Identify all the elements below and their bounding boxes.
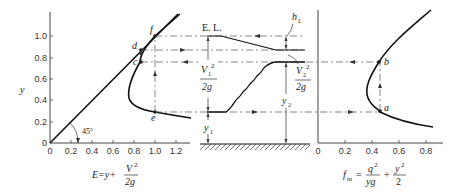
ytick-1.0: 1.0	[34, 31, 47, 41]
xlabel-den: 2g	[125, 176, 135, 187]
angle-label: 45°	[82, 127, 93, 136]
fm-plus: +	[384, 169, 390, 180]
y1-sub: 1	[210, 129, 213, 135]
ytick-0: 0	[42, 138, 47, 148]
head-loss-sub: L	[297, 18, 302, 24]
rxtick-0: 0	[315, 146, 320, 156]
label-a: a	[384, 102, 389, 113]
specific-energy-curve	[129, 14, 191, 118]
rxtick-0.6: 0.6	[393, 146, 406, 156]
y2-sub: 2	[288, 102, 291, 108]
hydraulic-jump-diagram: 0 0.2 0.4 0.6 0.8 1.0 y 0 0.2 0.4 0.6 0.…	[0, 0, 464, 193]
arrow-d-icon	[180, 48, 186, 52]
arrow-el-icon	[254, 34, 260, 38]
fm-num1: q	[368, 163, 373, 174]
hydraulic-jump-schematic: E. L. V 1 2 2g y 1 y 2	[200, 11, 311, 150]
label-d: d	[132, 40, 138, 51]
xlabel-num: V	[126, 163, 134, 174]
arrow-b-icon	[349, 60, 355, 64]
ytick-0.2: 0.2	[34, 117, 47, 127]
left-y-label: y	[19, 84, 25, 95]
angle-arrow-icon	[76, 138, 80, 143]
ytick-0.4: 0.4	[34, 95, 47, 105]
left-x-ticks: 0 0.2 0.4 0.6 0.8 1.0 1.2	[47, 140, 182, 156]
v2-sup: 2	[306, 63, 310, 71]
right-x-label: f m = q 2 yg + y 2 2	[343, 161, 406, 187]
rxtick-0.4: 0.4	[366, 146, 379, 156]
label-e: e	[151, 112, 156, 123]
fm-sup1: 2	[374, 161, 378, 169]
xtick-1.0: 1.0	[149, 146, 162, 156]
xlabel-lhs: E=y+	[91, 169, 116, 180]
label-b: b	[384, 56, 389, 67]
xlabel-sup: 2	[134, 161, 138, 169]
arrow-y1-icon	[252, 110, 258, 114]
xtick-0.8: 0.8	[128, 146, 141, 156]
y1-label: y	[203, 122, 209, 133]
right-chart: 0 0.2 0.4 0.6 0.8 f m = q 2 yg + y 2 2 b…	[315, 10, 443, 187]
rxtick-0.8: 0.8	[420, 146, 433, 156]
energy-line-label: E. L.	[202, 22, 222, 33]
label-c: c	[133, 56, 138, 67]
energy-line	[207, 36, 305, 50]
v1-sup: 2	[211, 62, 215, 70]
v2-den: 2g	[296, 81, 306, 92]
fm-num2: y	[394, 163, 400, 174]
xtick-1.2: 1.2	[170, 146, 183, 156]
up-arrow-icon	[153, 71, 157, 76]
fm-eq: =	[356, 169, 362, 180]
xtick-0.4: 0.4	[86, 146, 99, 156]
fm-sup2: 2	[401, 161, 405, 169]
ytick-0.6: 0.6	[34, 74, 47, 84]
left-x-label: E=y+ V 2 2g	[91, 161, 138, 187]
specific-force-curve	[367, 10, 433, 127]
arrow-c-icon	[182, 60, 188, 64]
y2-label: y	[281, 95, 287, 106]
label-f: f	[150, 24, 154, 35]
ytick-0.8: 0.8	[34, 53, 47, 63]
bed-hatching	[200, 144, 310, 150]
rxtick-0.2: 0.2	[339, 146, 352, 156]
fm-den2: 2	[396, 176, 401, 187]
v2-sub: 2	[303, 72, 306, 78]
head-loss-label: h	[292, 11, 297, 22]
arrow-a-icon	[348, 110, 354, 114]
xtick-0: 0	[47, 146, 52, 156]
fm-sub: m	[347, 175, 352, 183]
fm-den1: yg	[365, 176, 375, 187]
left-chart: 0 0.2 0.4 0.6 0.8 1.0 y 0 0.2 0.4 0.6 0.…	[19, 12, 191, 187]
xtick-0.6: 0.6	[107, 146, 120, 156]
hl-leader	[287, 24, 293, 36]
v1-sub: 1	[208, 71, 211, 77]
v1-den: 2g	[202, 81, 212, 92]
up-arrow-ab-icon	[378, 83, 382, 88]
xtick-0.2: 0.2	[65, 146, 78, 156]
